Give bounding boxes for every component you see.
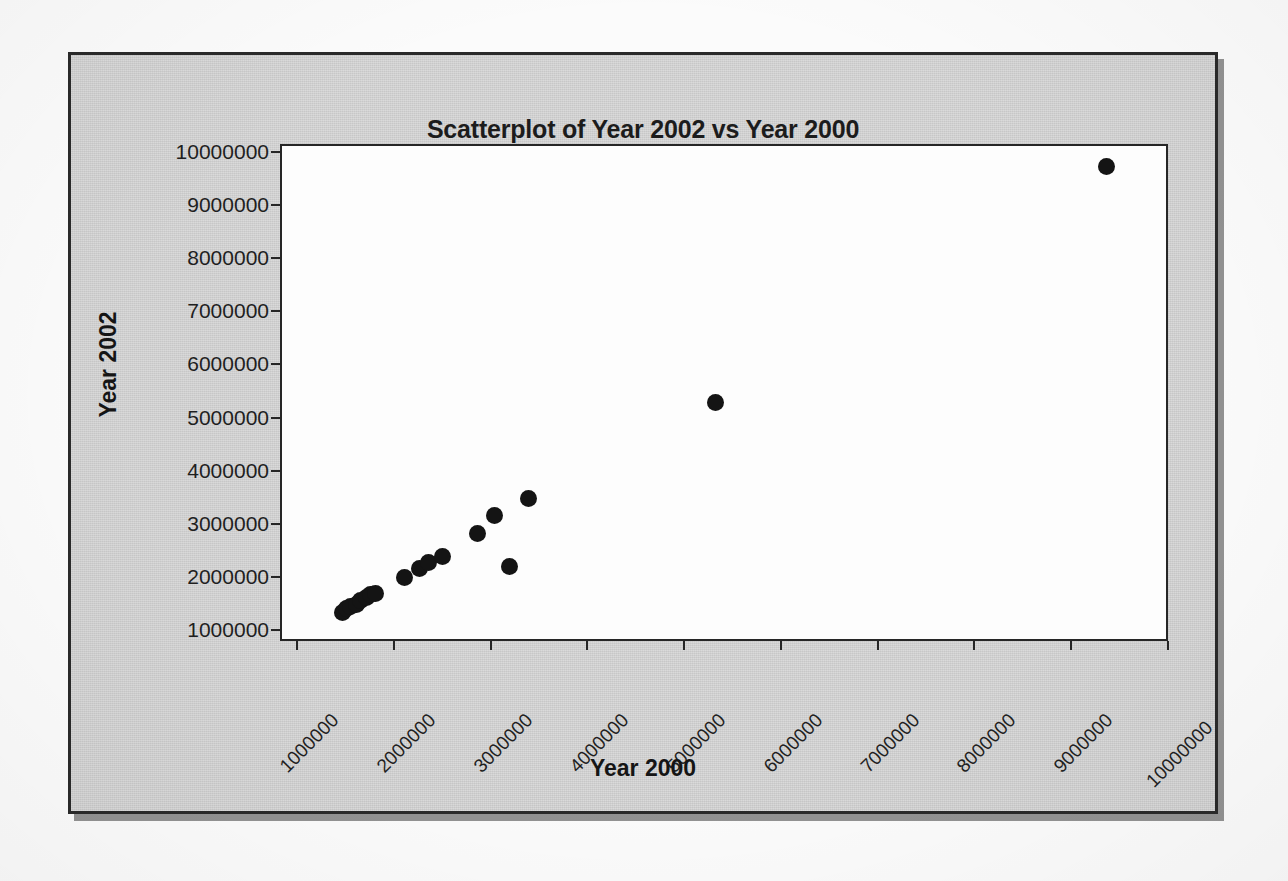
scatter-point: [520, 490, 537, 507]
x-axis-tick: [490, 641, 492, 650]
x-axis-tick: [877, 641, 879, 650]
x-axis-tick: [393, 641, 395, 650]
y-axis-tick: [271, 523, 280, 525]
chart-frame: this is shown below scatterplot Scatterp…: [68, 52, 1218, 814]
y-axis-tick: [271, 310, 280, 312]
scatter-point: [469, 525, 486, 542]
y-axis-tick: [271, 417, 280, 419]
y-axis-tick: [271, 576, 280, 578]
x-axis-tick: [1070, 641, 1072, 650]
x-axis-tick: [683, 641, 685, 650]
x-axis-tick: [296, 641, 298, 650]
x-axis-title: Year 2000: [71, 755, 1215, 782]
scatter-point: [501, 558, 518, 575]
plot-area: [280, 144, 1168, 641]
x-axis-tick: [586, 641, 588, 650]
scatter-point: [396, 569, 413, 586]
x-axis-tick: [780, 641, 782, 650]
scatter-point: [367, 585, 384, 602]
y-axis-tick: [271, 151, 280, 153]
scatter-point: [1098, 158, 1115, 175]
scatter-point: [434, 548, 451, 565]
x-axis-tick: [1167, 641, 1169, 650]
y-axis-tick: [271, 470, 280, 472]
y-axis-tick: [271, 363, 280, 365]
x-axis-tick: [973, 641, 975, 650]
chart-title: Scatterplot of Year 2002 vs Year 2000: [71, 115, 1215, 144]
scatter-point: [486, 507, 503, 524]
y-axis-tick: [271, 204, 280, 206]
y-axis-tick: [271, 629, 280, 631]
scanned-page: this is shown below scatterplot Scatterp…: [0, 0, 1288, 881]
scatter-point: [707, 394, 724, 411]
y-axis-title: Year 2002: [95, 255, 122, 475]
y-axis-tick: [271, 257, 280, 259]
